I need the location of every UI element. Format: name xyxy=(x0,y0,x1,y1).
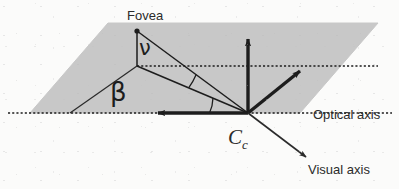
nu-angle-label: ν xyxy=(139,38,151,59)
center-of-cornea-subscript: c xyxy=(242,137,248,152)
diagram-canvas xyxy=(0,0,399,189)
beta-angle-label: β xyxy=(110,79,127,105)
fovea-point-marker xyxy=(134,28,139,33)
visual-axis-label: Visual axis xyxy=(308,163,370,176)
retinal-plane-parallelogram xyxy=(30,23,378,113)
visual-axis-arrow xyxy=(248,113,306,157)
optical-axis-label: Optical axis xyxy=(313,108,380,121)
center-of-cornea-label: Cc xyxy=(228,127,248,151)
eye-geometry-diagram: Fovea ν β Cc Optical axis Visual axis xyxy=(0,0,399,189)
fovea-label: Fovea xyxy=(127,9,163,22)
center-of-cornea-letter: C xyxy=(228,125,242,149)
